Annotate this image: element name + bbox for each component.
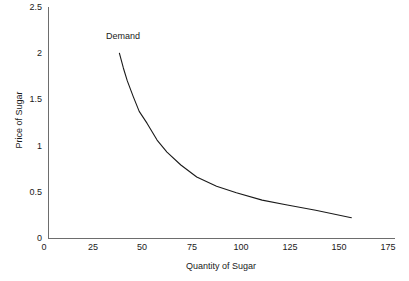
- demand-curve-chart: 2.5 2 1.5 1 0.5 0 0 25 50 75 100 125 150…: [0, 0, 409, 281]
- demand-curve-line: [119, 53, 351, 217]
- demand-curve-plot: [0, 0, 409, 281]
